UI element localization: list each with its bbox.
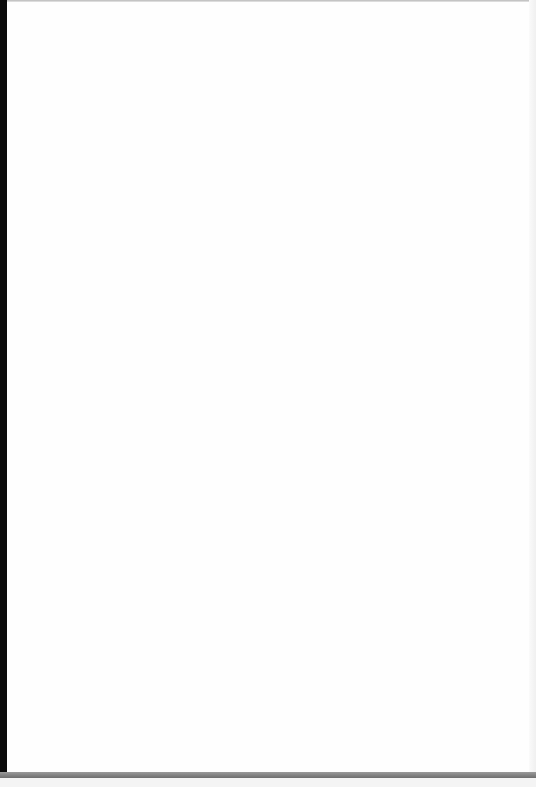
scan-right-edge	[529, 0, 536, 772]
scan-left-edge	[0, 0, 7, 772]
blank-page	[7, 2, 529, 772]
scan-bottom-margin	[0, 778, 536, 787]
